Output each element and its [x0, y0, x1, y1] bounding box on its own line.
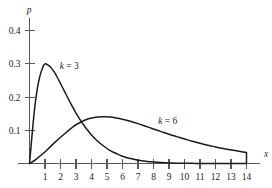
- x-tick-label: 8: [151, 172, 156, 182]
- y-tick-label: 0.4: [9, 26, 21, 36]
- x-axis-tick-labels: 1234567891011121314: [43, 172, 252, 182]
- x-tick-label: 9: [167, 172, 172, 182]
- x-tick-label: 11: [195, 172, 204, 182]
- y-tick-label: 0.2: [9, 93, 21, 103]
- series-annotation-1: k = 3: [60, 61, 79, 71]
- curve-series-1: [30, 64, 247, 164]
- x-tick-label: 6: [120, 172, 125, 182]
- annotation-equals: =: [64, 61, 74, 71]
- chart-canvas: 0.10.20.30.4 1234567891011121314 k = 3k …: [0, 0, 272, 188]
- annotation-equals: =: [162, 116, 172, 126]
- annotation-value: 3: [74, 61, 79, 71]
- x-tick-label: 5: [105, 172, 110, 182]
- x-tick-label: 4: [89, 172, 94, 182]
- y-axis-label: p: [26, 5, 32, 15]
- x-tick-label: 14: [242, 172, 252, 182]
- x-tick-label: 7: [136, 172, 141, 182]
- x-axis-label: x: [263, 149, 269, 159]
- x-tick-label: 12: [211, 172, 221, 182]
- y-axis-tick-labels: 0.10.20.30.4: [9, 26, 21, 136]
- y-tick-label: 0.3: [9, 59, 21, 69]
- curve-series-2: [30, 117, 247, 164]
- x-tick-label: 3: [74, 172, 79, 182]
- x-tick-label: 13: [226, 172, 236, 182]
- x-tick-label: 1: [43, 172, 48, 182]
- data-curves: [30, 64, 247, 164]
- x-tick-label: 10: [180, 172, 190, 182]
- series-annotation-2: k = 6: [158, 116, 177, 126]
- annotation-value: 6: [172, 116, 177, 126]
- gamma-distribution-figure: 0.10.20.30.4 1234567891011121314 k = 3k …: [0, 0, 272, 188]
- x-tick-label: 2: [58, 172, 63, 182]
- y-tick-label: 0.1: [9, 126, 21, 136]
